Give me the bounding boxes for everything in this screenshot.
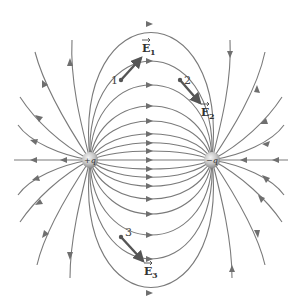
field-lines-outward-positive <box>14 40 90 278</box>
positive-charge: +q <box>82 152 98 168</box>
point-3-marker <box>119 235 123 239</box>
vector-E3-arrow <box>121 237 143 261</box>
field-line <box>90 106 212 160</box>
field-line <box>37 160 90 265</box>
outward-arrows <box>30 58 73 260</box>
point-2-label: 2 <box>184 74 191 87</box>
svg-text:3: 3 <box>152 270 158 280</box>
svg-text:1: 1 <box>150 47 156 57</box>
vector-E3-label: E 3 <box>144 261 158 280</box>
point-3-label: 3 <box>125 226 132 239</box>
positive-charge-label: +q <box>84 156 96 165</box>
field-line-arrows <box>146 21 153 296</box>
field-line <box>72 40 90 160</box>
inward-arrows <box>227 51 279 272</box>
vector-E2-label: E 2 <box>201 102 215 121</box>
field-line <box>212 160 232 278</box>
field-line <box>90 160 212 214</box>
negative-charge-label: −q <box>206 156 218 165</box>
field-line <box>212 52 265 160</box>
vector-E1-label: E 1 <box>142 38 156 57</box>
field-line <box>90 160 212 186</box>
field-line <box>90 160 212 169</box>
dipole-field-diagram: 1 2 3 E 1 E 2 E 3 +q −q <box>0 0 299 297</box>
field-line <box>90 151 212 160</box>
field-line <box>90 61 212 160</box>
svg-text:2: 2 <box>209 111 215 121</box>
field-line <box>212 40 230 160</box>
negative-charge: −q <box>204 152 220 168</box>
field-line <box>90 134 212 160</box>
point-1-label: 1 <box>111 74 118 87</box>
field-line <box>212 160 265 265</box>
field-line <box>90 160 212 259</box>
field-line <box>35 52 90 160</box>
field-line <box>70 160 90 278</box>
point-1-marker <box>119 78 123 82</box>
point-2-marker <box>178 78 182 82</box>
